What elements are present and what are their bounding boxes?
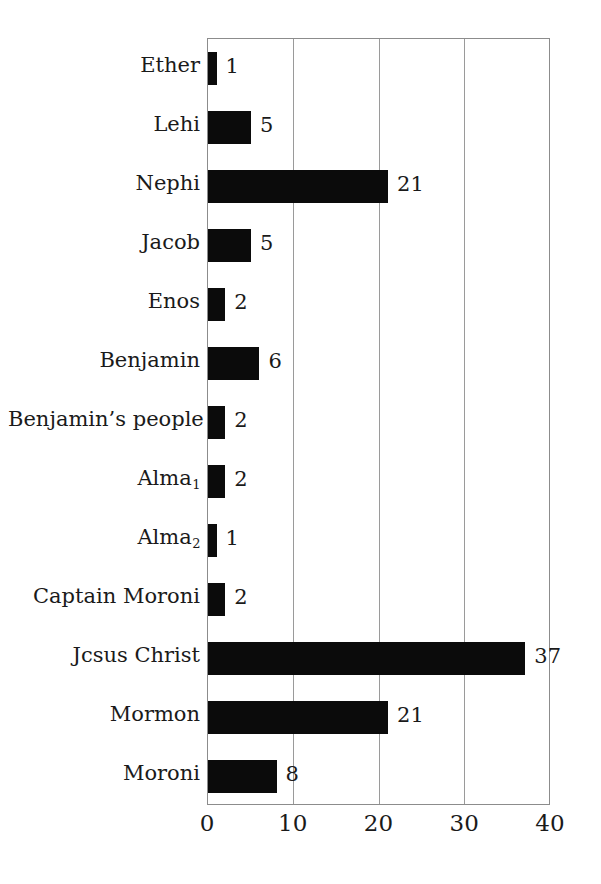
bar-value-label: 1 <box>217 50 239 83</box>
x-tick-label: 40 <box>535 810 564 836</box>
category-label-subscript: 1 <box>192 477 200 492</box>
category-label: Benjamin <box>8 344 200 377</box>
bar-row: 21 <box>208 688 549 747</box>
bar-value-label: 21 <box>388 699 424 732</box>
x-tick-label: 0 <box>200 810 215 836</box>
bar-row: 8 <box>208 747 549 806</box>
category-label: Nephi <box>8 167 200 200</box>
bar-chart: 1521526221237218 EtherLehiNephiJacobEnos… <box>0 0 601 884</box>
bar-value-label: 2 <box>225 404 247 437</box>
bar-value-label: 5 <box>251 227 273 260</box>
category-label: Benjamin’s people <box>8 403 200 436</box>
bar <box>208 170 388 203</box>
bar-value-label: 6 <box>259 345 281 378</box>
bar <box>208 406 225 439</box>
bar-value-label: 37 <box>525 640 561 673</box>
bar <box>208 642 525 675</box>
category-label: Enos <box>8 285 200 318</box>
category-label: Alma2 <box>8 521 200 556</box>
bar-row: 21 <box>208 157 549 216</box>
bar <box>208 760 277 793</box>
bar-row: 1 <box>208 39 549 98</box>
value-axis-tick-labels: 010203040 <box>0 810 601 850</box>
bar-row: 5 <box>208 216 549 275</box>
category-label: Jcsus Christ <box>8 639 200 672</box>
category-label: Moroni <box>8 757 200 790</box>
bar-row: 2 <box>208 452 549 511</box>
bar-value-label: 2 <box>225 581 247 614</box>
plot-area: 1521526221237218 <box>207 38 550 805</box>
category-label: Ether <box>8 49 200 82</box>
category-label: Mormon <box>8 698 200 731</box>
bar-value-label: 2 <box>225 286 247 319</box>
category-label: Captain Moroni <box>8 580 200 613</box>
bar <box>208 229 251 262</box>
bar-row: 6 <box>208 334 549 393</box>
bar-value-label: 5 <box>251 109 273 142</box>
bar-value-label: 1 <box>217 522 239 555</box>
bar <box>208 288 225 321</box>
bar <box>208 524 217 557</box>
category-label: Jacob <box>8 226 200 259</box>
category-label: Alma1 <box>8 462 200 497</box>
bar <box>208 583 225 616</box>
bar-row: 1 <box>208 511 549 570</box>
bar <box>208 465 225 498</box>
bar <box>208 701 388 734</box>
bar-row: 2 <box>208 275 549 334</box>
bar-row: 2 <box>208 570 549 629</box>
bar <box>208 347 259 380</box>
x-tick-label: 30 <box>450 810 479 836</box>
bar-value-label: 21 <box>388 168 424 201</box>
bar-row: 2 <box>208 393 549 452</box>
x-tick-label: 10 <box>278 810 307 836</box>
x-tick-label: 20 <box>364 810 393 836</box>
category-label-subscript: 2 <box>192 536 200 551</box>
bar-value-label: 8 <box>277 758 299 791</box>
category-label: Lehi <box>8 108 200 141</box>
bar <box>208 111 251 144</box>
bar-value-label: 2 <box>225 463 247 496</box>
bar-row: 5 <box>208 98 549 157</box>
bar <box>208 52 217 85</box>
bar-row: 37 <box>208 629 549 688</box>
